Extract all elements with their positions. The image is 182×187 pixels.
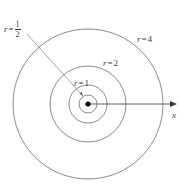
label-r-2-value: 2 [114,58,119,68]
label-r-1-variable: r [74,78,78,88]
label-r-half: r=12 [4,21,21,39]
label-x-axis: x [172,111,176,120]
concentric-circles-figure: r=12 r=4 r=2 r=1 x [0,0,182,187]
label-r-2: r=2 [103,59,118,68]
label-r-1-value: 1 [85,78,90,88]
label-r-4-equals: = [141,34,148,44]
fraction-one-half: 12 [15,21,21,39]
label-r-1-equals: = [78,78,85,88]
label-r-half-equals: = [8,24,15,34]
origin-dot-marker [85,101,90,106]
label-r-half-variable: r [4,24,8,34]
label-r-4-variable: r [137,34,141,44]
figure-canvas [0,0,182,187]
label-r-4-value: 4 [148,34,153,44]
x-axis-arrowhead-icon [170,101,177,107]
label-r-4: r=4 [137,35,152,44]
label-r-1: r=1 [74,79,89,88]
leader-arrowhead-icon [80,92,83,96]
label-r-2-equals: = [107,58,114,68]
label-r-2-variable: r [103,58,107,68]
fraction-denominator: 2 [15,31,21,39]
fraction-numerator: 1 [15,21,21,29]
